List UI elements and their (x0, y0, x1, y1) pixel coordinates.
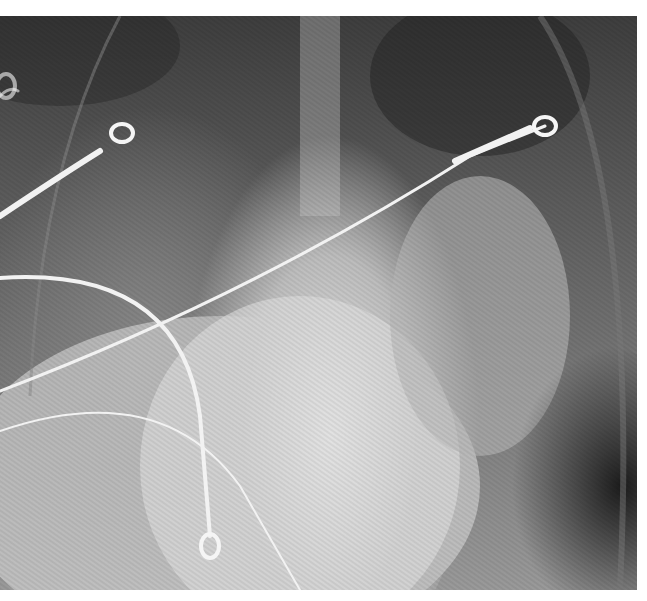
xray-rendering (0, 16, 637, 590)
chest-xray-image: Chest X-ray with diffuse bilateral opaci… (0, 16, 637, 590)
